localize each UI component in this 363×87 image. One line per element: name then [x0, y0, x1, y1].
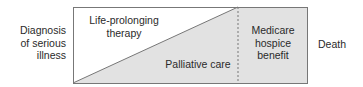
- death-label: Death: [318, 38, 346, 51]
- hospice-line-1: Medicare: [240, 24, 306, 37]
- palliative-care-label: Palliative care: [158, 58, 238, 71]
- life-prolonging-line-2: therapy: [80, 27, 168, 40]
- hospice-line-2: hospice: [240, 37, 306, 50]
- diagnosis-label-line-3: illness: [0, 49, 66, 62]
- hospice-line-3: benefit: [240, 49, 306, 62]
- life-prolonging-line-1: Life-prolonging: [80, 14, 168, 27]
- hospice-benefit-label: Medicare hospice benefit: [240, 24, 306, 62]
- diagnosis-label: Diagnosis of serious illness: [0, 24, 66, 62]
- life-prolonging-therapy-label: Life-prolonging therapy: [80, 14, 168, 39]
- diagnosis-label-line-1: Diagnosis: [0, 24, 66, 37]
- diagnosis-label-line-2: of serious: [0, 37, 66, 50]
